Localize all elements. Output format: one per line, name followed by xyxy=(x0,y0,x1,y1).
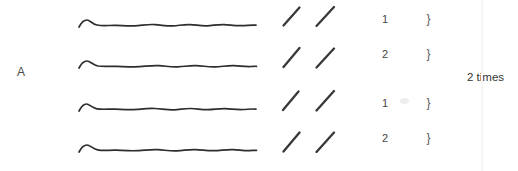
notation-row: 2 } xyxy=(0,129,518,157)
ending-number: 2 xyxy=(376,49,394,60)
notation-diagram: A 1 } 2 } xyxy=(0,0,518,171)
wavy-line-icon xyxy=(77,100,258,114)
ending-number: 1 xyxy=(376,14,394,25)
slash-mark-icon xyxy=(314,89,336,112)
repeat-count-label: 2 times xyxy=(467,71,504,83)
repeat-brace: } xyxy=(422,132,435,144)
wavy-line-icon xyxy=(77,16,258,30)
scan-fold-line xyxy=(481,0,483,171)
notation-row: 2 } xyxy=(0,45,518,73)
slash-mark-icon xyxy=(314,5,336,28)
slash-mark-icon xyxy=(314,130,336,153)
slash-mark-icon xyxy=(281,46,303,69)
slash-mark-icon xyxy=(314,46,336,69)
slash-mark-icon xyxy=(281,130,303,153)
slash-mark-icon xyxy=(281,89,303,112)
notation-row: 1 } xyxy=(0,88,518,116)
ending-number: 2 xyxy=(376,133,394,144)
repeat-brace: } xyxy=(422,97,435,109)
repeat-brace: } xyxy=(422,13,435,25)
wavy-line-icon xyxy=(77,141,258,155)
scan-smudge xyxy=(400,98,409,104)
slash-mark-icon xyxy=(281,5,303,28)
wavy-line-icon xyxy=(77,57,258,71)
notation-row: 1 } xyxy=(0,4,518,32)
repeat-brace: } xyxy=(422,48,435,60)
ending-number: 1 xyxy=(376,98,394,109)
